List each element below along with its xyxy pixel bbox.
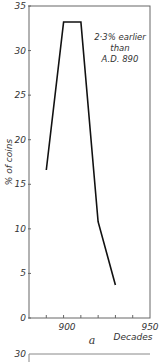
annotation-line-3: A.D. 890 bbox=[101, 54, 139, 64]
y-tick-label: 20 bbox=[15, 135, 27, 145]
y-tick-label: 15 bbox=[15, 179, 27, 189]
x-tick-label-900: 900 bbox=[58, 322, 75, 332]
y-tick-label: 35 bbox=[15, 1, 27, 11]
panel-label: a bbox=[89, 334, 96, 347]
chart: 05101520253035 2·3% earlier than A.D. 89… bbox=[0, 0, 166, 362]
y-tick-label: 25 bbox=[15, 90, 27, 100]
y-tick-label: 0 bbox=[20, 313, 26, 323]
next-panel-y-tick: 30 bbox=[15, 349, 27, 359]
y-tick-label: 30 bbox=[15, 46, 27, 56]
y-tick-label: 10 bbox=[15, 224, 27, 234]
x-axis-label: Decades bbox=[114, 332, 153, 342]
annotation-line-2: than bbox=[110, 43, 129, 53]
y-axis-label: % of coins bbox=[4, 139, 14, 186]
x-tick-label-950: 950 bbox=[141, 322, 158, 332]
y-tick-label: 5 bbox=[20, 268, 26, 278]
annotation-line-1: 2·3% earlier bbox=[94, 32, 146, 42]
